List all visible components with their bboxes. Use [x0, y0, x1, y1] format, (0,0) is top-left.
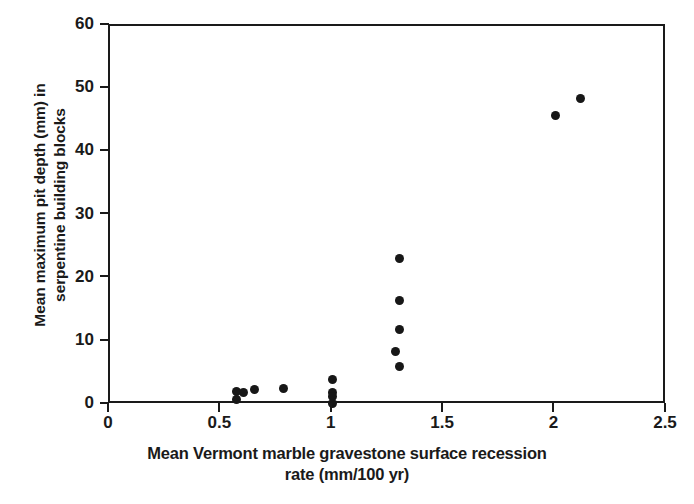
data-point	[395, 296, 404, 305]
x-axis-tick	[664, 403, 666, 412]
x-axis-title: Mean Vermont marble gravestone surface r…	[47, 443, 647, 485]
x-axis-tick	[330, 403, 332, 412]
x-axis-tick-label: 1	[301, 414, 361, 431]
x-axis-tick	[441, 403, 443, 412]
y-axis-tick-label: 60	[42, 15, 94, 32]
data-point	[279, 384, 288, 393]
y-axis-tick-label: 10	[42, 331, 94, 348]
y-axis-tick-label: 0	[42, 394, 94, 411]
y-axis-tick-label: 30	[42, 205, 94, 222]
y-axis-tick-label: 50	[42, 78, 94, 95]
y-axis-tick-label: 20	[42, 268, 94, 285]
x-axis-tick-label: 0	[78, 414, 138, 431]
x-axis-tick	[218, 403, 220, 412]
x-axis-tick	[107, 403, 109, 412]
data-point	[391, 347, 400, 356]
x-axis-tick	[552, 403, 554, 412]
y-axis-tick-label: 40	[42, 141, 94, 158]
x-axis-tick-label: 1.5	[412, 414, 472, 431]
data-point	[328, 375, 337, 384]
data-point	[395, 362, 404, 371]
x-axis-tick-label: 0.5	[189, 414, 249, 431]
data-point	[395, 254, 404, 263]
data-point	[551, 111, 560, 120]
plot-area	[108, 24, 665, 403]
scatter-chart-figure: Mean maximum pit depth (mm) in serpentin…	[0, 0, 694, 504]
data-point	[576, 94, 585, 103]
x-axis-tick-label: 2	[524, 414, 584, 431]
data-point	[395, 325, 404, 334]
data-point	[239, 388, 248, 397]
data-point	[232, 395, 241, 404]
data-point	[250, 385, 259, 394]
x-axis-tick-label: 2.5	[635, 414, 694, 431]
